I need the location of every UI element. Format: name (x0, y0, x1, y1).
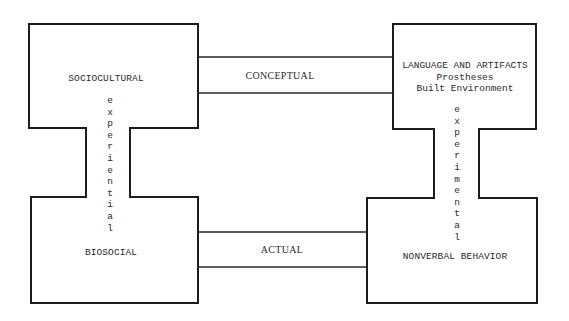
node-label-language-and-artifacts: LANGUAGE AND ARTIFACTS (402, 60, 527, 72)
link-label-experiential: experiential (105, 95, 115, 234)
node-label-sociocultural: SOCIOCULTURAL (68, 73, 143, 84)
link-label-experimental: experimental (452, 104, 462, 243)
node-sublabel-built-environment: Built Environment (402, 83, 527, 95)
node-label-biosocial: BIOSOCIAL (85, 247, 137, 258)
node-top-right-labels: LANGUAGE AND ARTIFACTS Prostheses Built … (402, 60, 527, 95)
node-sublabel-prostheses: Prostheses (402, 72, 527, 84)
link-label-actual: ACTUAL (261, 244, 303, 255)
link-label-conceptual: CONCEPTUAL (245, 70, 314, 81)
node-label-nonverbal-behavior: NONVERBAL BEHAVIOR (403, 251, 507, 262)
diagram-canvas (0, 0, 569, 321)
